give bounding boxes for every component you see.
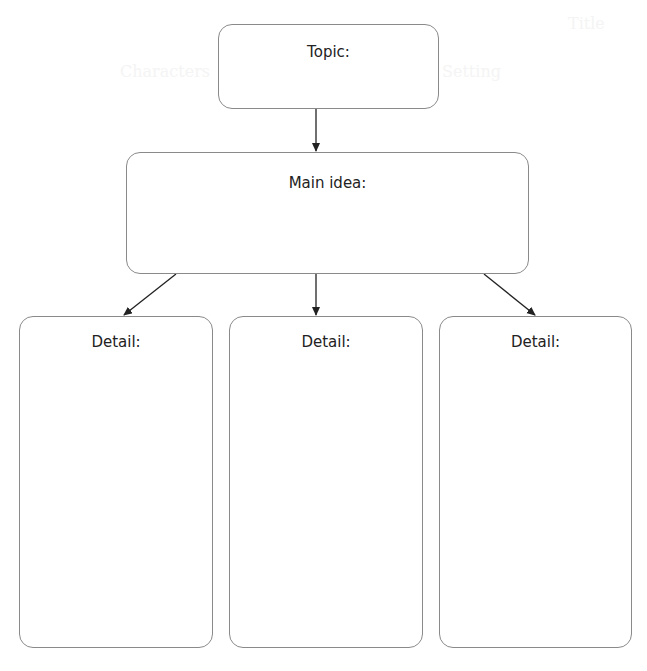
arrow-main-to-detail-3 — [484, 274, 535, 315]
ghost-setting-text: Setting — [442, 62, 501, 81]
arrow-main-to-detail-1 — [124, 274, 176, 315]
detail-box-2[interactable]: Detail: — [229, 316, 423, 648]
detail-label-1: Detail: — [20, 333, 212, 351]
topic-box[interactable]: Topic: — [218, 24, 439, 109]
main-idea-box[interactable]: Main idea: — [126, 152, 529, 274]
ghost-characters-text: Characters — [120, 62, 210, 81]
main-idea-label: Main idea: — [127, 174, 528, 192]
ghost-title-text: Title — [568, 14, 605, 33]
detail-box-1[interactable]: Detail: — [19, 316, 213, 648]
detail-box-3[interactable]: Detail: — [439, 316, 632, 648]
detail-label-2: Detail: — [230, 333, 422, 351]
topic-label: Topic: — [219, 43, 438, 61]
detail-label-3: Detail: — [440, 333, 631, 351]
